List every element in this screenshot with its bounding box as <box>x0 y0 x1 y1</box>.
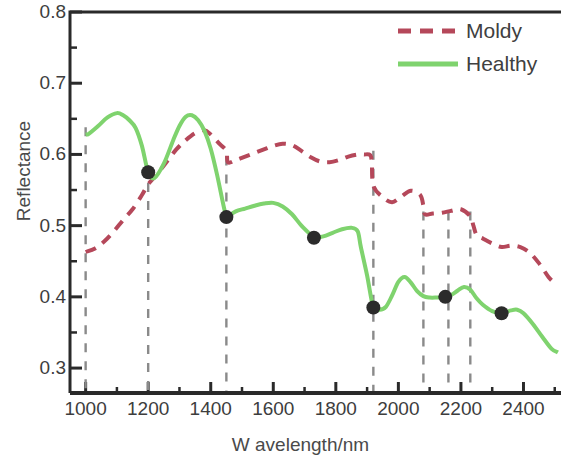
legend-item-healthy: Healthy <box>396 47 556 80</box>
marker-point <box>366 301 380 315</box>
marker-point <box>438 290 452 304</box>
series-line-moldy <box>86 130 555 283</box>
legend-swatch-healthy <box>396 56 460 72</box>
marker-points-layer <box>141 165 508 320</box>
data-series-layer <box>86 113 558 352</box>
legend-label-moldy: Moldy <box>466 20 522 41</box>
marker-point <box>307 231 321 245</box>
marker-point <box>495 306 509 320</box>
legend-swatch-moldy <box>396 23 460 39</box>
marker-point <box>219 210 233 224</box>
legend-label-healthy: Healthy <box>466 53 537 74</box>
legend-item-moldy: Moldy <box>396 14 556 47</box>
marker-point <box>141 165 155 179</box>
spectral-reflectance-chart: Reflectance W avelength/nm 0.30.40.50.60… <box>0 0 563 472</box>
vertical-reference-lines <box>86 127 471 391</box>
series-line-healthy <box>86 113 558 352</box>
legend: Moldy Healthy <box>396 14 556 80</box>
